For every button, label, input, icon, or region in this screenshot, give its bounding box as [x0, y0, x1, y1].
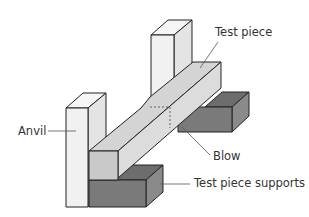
label-test-piece-supports: Test piece supports — [194, 178, 305, 190]
label-anvil: Anvil — [18, 126, 46, 138]
label-blow: Blow — [213, 151, 241, 163]
charpy-diagram: Test piece Anvil Blow Test piece support… — [0, 0, 309, 217]
label-test-piece: Test piece — [215, 27, 272, 39]
